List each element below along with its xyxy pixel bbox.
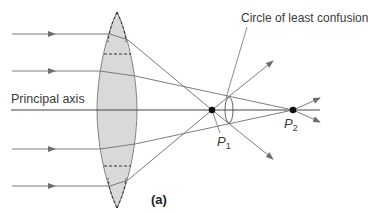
p2-subscript: 2 [293, 123, 298, 133]
circle-of-least-confusion-label: Circle of least confusion [241, 12, 368, 24]
figure-caption: (a) [151, 193, 167, 206]
p1-subscript: 1 [226, 141, 231, 151]
circle-label-leader [226, 27, 247, 98]
principal-axis-label: Principal axis [11, 93, 85, 106]
p1-label: P1 [217, 135, 231, 151]
p2-label: P2 [284, 117, 298, 133]
focal-point-p2 [290, 107, 297, 114]
p2-letter: P [284, 116, 293, 131]
focal-point-p1 [209, 107, 216, 114]
p1-letter: P [217, 134, 226, 149]
